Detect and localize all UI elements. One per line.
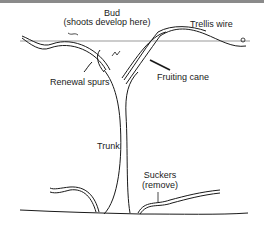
grapevine-illustration: [0, 0, 264, 225]
bud-pointer: [68, 33, 78, 35]
label-suckers: Suckers: [140, 170, 180, 180]
label-bud-note: (shoots develop here): [52, 17, 162, 27]
label-trellis-wire: Trellis wire: [190, 19, 233, 29]
label-trunk: Trunk: [97, 141, 120, 151]
ground-line: [20, 210, 248, 214]
label-renewal-spurs: Renewal spurs: [50, 77, 110, 87]
label-suckers-note: (remove): [140, 180, 180, 190]
fruiting-cane-pointer: [150, 60, 170, 70]
left-cane: [22, 38, 106, 70]
label-fruiting-cane: Fruiting cane: [157, 72, 209, 82]
trunk-outline-right: [126, 72, 138, 213]
renewal-spur: [97, 50, 104, 72]
